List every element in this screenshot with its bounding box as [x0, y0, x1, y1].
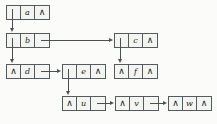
- node-a-null-cell: ∧: [35, 6, 49, 19]
- edge-d-to-e-arrowhead-icon: [57, 69, 61, 73]
- node-a-value-cell: a: [21, 6, 35, 19]
- node-e-value-cell: e: [77, 65, 91, 78]
- edge-b-to-c: [41, 40, 109, 41]
- node-v-null-cell: ∧: [116, 97, 130, 110]
- node-b-value-cell: b: [21, 34, 35, 47]
- edge-b-to-c-arrowhead-icon: [109, 38, 113, 42]
- node-w-value-cell: w: [183, 97, 197, 110]
- edge-u-to-v-arrowhead-icon: [110, 101, 114, 105]
- node-b-pointer-cell: [7, 34, 21, 47]
- node-e-pointer-cell: [63, 65, 77, 78]
- node-u-value-cell: u: [77, 97, 91, 110]
- edge-e-to-u-arrowhead-icon: [66, 91, 70, 95]
- node-u-null-cell: ∧: [63, 97, 77, 110]
- node-d-value-cell: d: [21, 65, 35, 78]
- edge-c-to-f-arrowhead-icon: [118, 59, 122, 63]
- edge-c-to-f: [120, 48, 121, 59]
- node-b-pointer-stub: [12, 38, 13, 48]
- node-w-null-right-cell: ∧: [197, 97, 211, 110]
- edge-u-to-v: [97, 103, 111, 104]
- node-d-null-cell: ∧: [7, 65, 21, 78]
- node-f-null-right-cell: ∧: [143, 65, 157, 78]
- edge-b-to-d: [12, 48, 13, 59]
- node-v-value-cell: v: [130, 97, 144, 110]
- node-c-value-cell: c: [129, 34, 143, 47]
- edge-d-to-e: [41, 71, 57, 72]
- node-c-pointer-cell: [115, 34, 129, 47]
- node-f-null-left-cell: ∧: [115, 65, 129, 78]
- node-w: ∧ w ∧: [168, 96, 212, 111]
- node-f-value-cell: f: [129, 65, 143, 78]
- node-f: ∧ f ∧: [114, 64, 158, 79]
- edge-b-to-d-arrowhead-icon: [10, 59, 14, 63]
- edge-v-to-w-arrowhead-icon: [163, 101, 167, 105]
- node-e-null-cell: ∧: [91, 65, 105, 78]
- linked-list-diagram: a ∧ b c ∧ ∧ d e ∧ ∧: [0, 0, 217, 124]
- node-w-null-left-cell: ∧: [169, 97, 183, 110]
- node-a-pointer-stub: [12, 9, 13, 19]
- node-a-pointer-cell: [7, 6, 21, 19]
- edge-a-to-b-arrowhead-icon: [10, 28, 14, 32]
- node-e-pointer-stub: [68, 69, 69, 79]
- node-c-pointer-stub: [120, 38, 121, 48]
- edge-v-to-w: [150, 103, 164, 104]
- node-c-null-cell: ∧: [143, 34, 157, 47]
